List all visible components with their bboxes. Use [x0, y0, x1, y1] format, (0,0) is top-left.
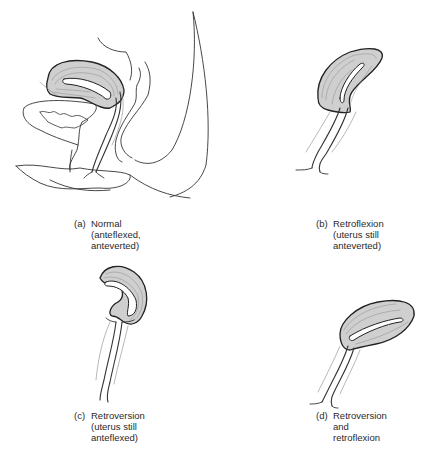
label-title: Retroversion [333, 410, 387, 421]
label-tag: (c) [74, 410, 91, 421]
label-tag: (d) [316, 410, 333, 421]
label-panel-c: (c)Retroversion (uterus still anteflexed… [74, 410, 145, 443]
label-line: (anteflexed, [74, 229, 141, 240]
label-line: and [316, 421, 387, 432]
label-panel-a: (a)Normal (anteflexed, anteverted) [74, 218, 141, 251]
panel-a-drawing [16, 12, 208, 198]
label-line: (uterus still [316, 229, 384, 240]
label-tag: (a) [74, 218, 91, 229]
label-tag: (b) [316, 218, 333, 229]
panel-c-drawing [96, 266, 147, 402]
panel-d-drawing [310, 301, 414, 408]
label-panel-d: (d)Retroversion and retroflexion [316, 410, 387, 443]
label-line: anteverted) [74, 240, 141, 251]
label-panel-b: (b)Retroflexion (uterus still anteverted… [316, 218, 384, 251]
label-line: (uterus still [74, 421, 145, 432]
panel-b-drawing [296, 49, 382, 174]
label-line: retroflexion [316, 432, 387, 443]
label-line: anteverted) [316, 240, 384, 251]
label-title: Normal [91, 218, 122, 229]
label-title: Retroflexion [333, 218, 384, 229]
label-line: anteflexed) [74, 432, 145, 443]
label-title: Retroversion [91, 410, 145, 421]
